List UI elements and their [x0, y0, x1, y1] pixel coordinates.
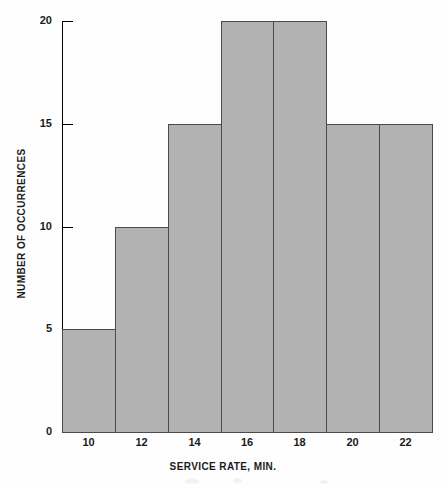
y-axis-tick-label-text: 15 [40, 117, 52, 129]
y-axis-tick-label-text: 10 [40, 220, 52, 232]
histogram-bar [326, 124, 380, 433]
scan-artifact [233, 478, 242, 483]
x-axis-title: SERVICE RATE, MIN. [0, 461, 446, 472]
y-axis-tick-label: 10 [0, 227, 58, 228]
y-axis-tick-label: 15 [0, 124, 58, 125]
y-axis-tick [62, 21, 73, 22]
scan-artifact [185, 479, 199, 484]
histogram-bar [221, 21, 274, 433]
y-axis-title: NUMBER OF OCCURRENCES [16, 124, 27, 324]
y-axis-tick-label-text: 20 [40, 14, 52, 26]
histogram-bar [168, 124, 222, 433]
y-axis-tick [62, 124, 73, 125]
y-axis-tick-label-text: 5 [46, 322, 52, 334]
y-axis-tick-label: 5 [0, 329, 58, 330]
histogram-bar [62, 329, 116, 433]
y-axis-tick [62, 227, 73, 228]
x-axis-tick-label: 22 [359, 436, 446, 448]
histogram-figure: 05101520 10121416182022 SERVICE RATE, MI… [0, 0, 446, 488]
scan-artifact [320, 480, 328, 484]
histogram-bar [115, 227, 169, 433]
histogram-bar [379, 124, 433, 433]
y-axis-tick-label: 20 [0, 21, 58, 22]
histogram-bar [273, 21, 327, 433]
y-axis-tick-label: 0 [0, 432, 58, 433]
